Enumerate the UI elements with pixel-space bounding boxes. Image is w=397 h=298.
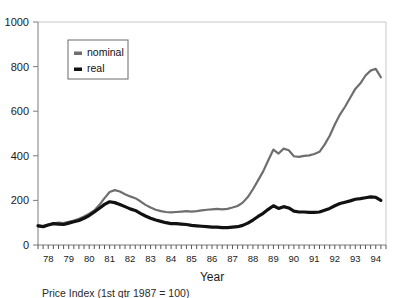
y-tick-label: 800	[11, 61, 29, 73]
chart-caption: Price Index (1st qtr 1987 = 100)	[42, 287, 189, 298]
y-tick-label: 400	[11, 150, 29, 162]
y-tick-label: 1000	[5, 16, 29, 28]
y-tick-label: 200	[11, 194, 29, 206]
x-tick-label: 84	[166, 253, 177, 264]
x-tick-label: 87	[227, 253, 238, 264]
x-tick-label: 79	[63, 253, 74, 264]
chart-canvas: 02004006008001000 7879808182838485868788…	[0, 0, 397, 298]
legend-swatch-nominal	[74, 52, 82, 56]
x-tick-label: 93	[350, 253, 361, 264]
x-tick-label: 82	[125, 253, 136, 264]
x-tick-label: 81	[104, 253, 115, 264]
x-tick-label: 88	[248, 253, 259, 264]
x-tick-label-group: 7879808182838485868788899091929394	[43, 253, 381, 264]
legend-label-real: real	[87, 62, 105, 74]
x-tick-label: 91	[309, 253, 320, 264]
legend-label-nominal: nominal	[87, 46, 124, 58]
legend-swatch-real	[74, 68, 82, 72]
x-tick-label: 78	[43, 253, 54, 264]
y-tick-label: 0	[23, 239, 29, 251]
price-index-chart: 02004006008001000 7879808182838485868788…	[0, 0, 397, 298]
x-tick-label: 80	[84, 253, 95, 264]
legend: nominal real	[68, 40, 128, 79]
x-tick-label: 92	[330, 253, 341, 264]
x-tick-label: 85	[186, 253, 197, 264]
x-tick-label: 86	[207, 253, 218, 264]
y-tick-label: 600	[11, 105, 29, 117]
x-axis-title: Year	[200, 270, 224, 284]
x-tick-label: 94	[370, 253, 381, 264]
x-tick-label: 90	[289, 253, 300, 264]
x-tick-label: 89	[268, 253, 279, 264]
x-tick-label: 83	[145, 253, 156, 264]
